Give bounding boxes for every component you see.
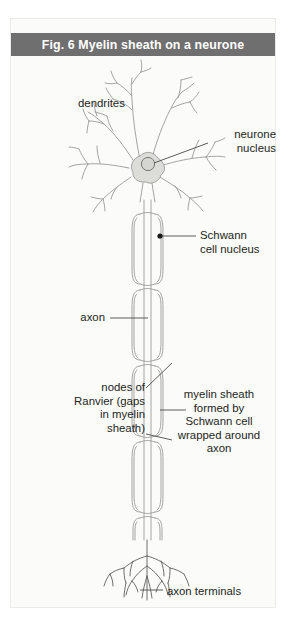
label-dendrites: dendrites <box>78 97 125 111</box>
label-neurone-nucleus: neurone nucleus <box>234 128 276 155</box>
figure-panel <box>10 18 276 608</box>
label-schwann-cell-nucleus: Schwann cell nucleus <box>200 229 260 256</box>
figure-title: Fig. 6 Myelin sheath on a neurone <box>42 38 244 52</box>
figure-container: Fig. 6 Myelin sheath on a neurone <box>0 0 286 622</box>
figure-title-bar: Fig. 6 Myelin sheath on a neurone <box>11 33 275 56</box>
label-axon-terminals: axon terminals <box>167 585 241 599</box>
label-axon: axon <box>80 311 105 325</box>
label-nodes-of-ranvier: nodes of Ranvier (gaps in myelin sheath) <box>74 381 145 435</box>
label-myelin-sheath: myelin sheath formed by Schwann cell wra… <box>163 388 275 456</box>
